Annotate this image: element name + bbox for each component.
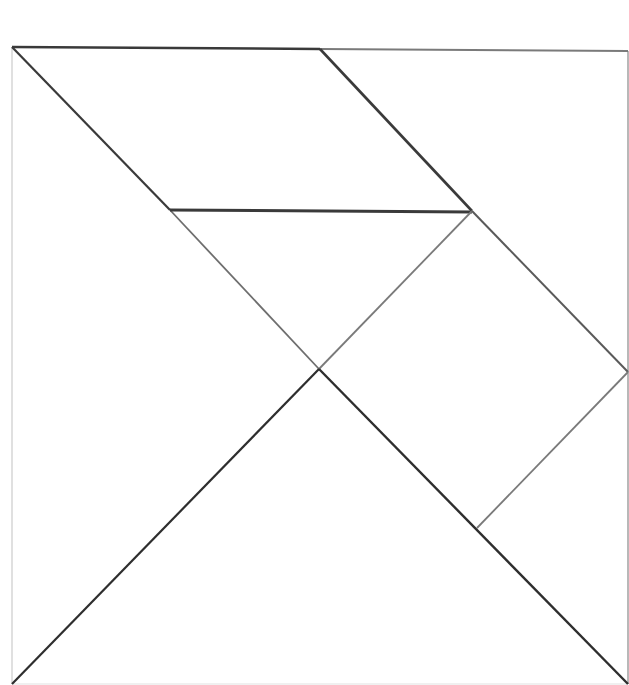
parallelogram-bottom-edge — [170, 210, 472, 212]
square-upper-right-edge — [472, 211, 628, 372]
large-triangle-right-edge — [319, 369, 628, 684]
parallelogram-right-edge — [320, 49, 472, 211]
small-triangle-right-edge — [319, 211, 472, 369]
border-top-right — [320, 49, 628, 51]
large-triangle-left-edge — [12, 369, 319, 684]
border-top-left — [12, 47, 320, 49]
square-lower-right-edge — [477, 372, 628, 528]
diagonal-upper-left-b — [170, 210, 319, 369]
tangram-diagram — [0, 0, 629, 685]
diagonal-upper-left-a — [12, 47, 170, 210]
